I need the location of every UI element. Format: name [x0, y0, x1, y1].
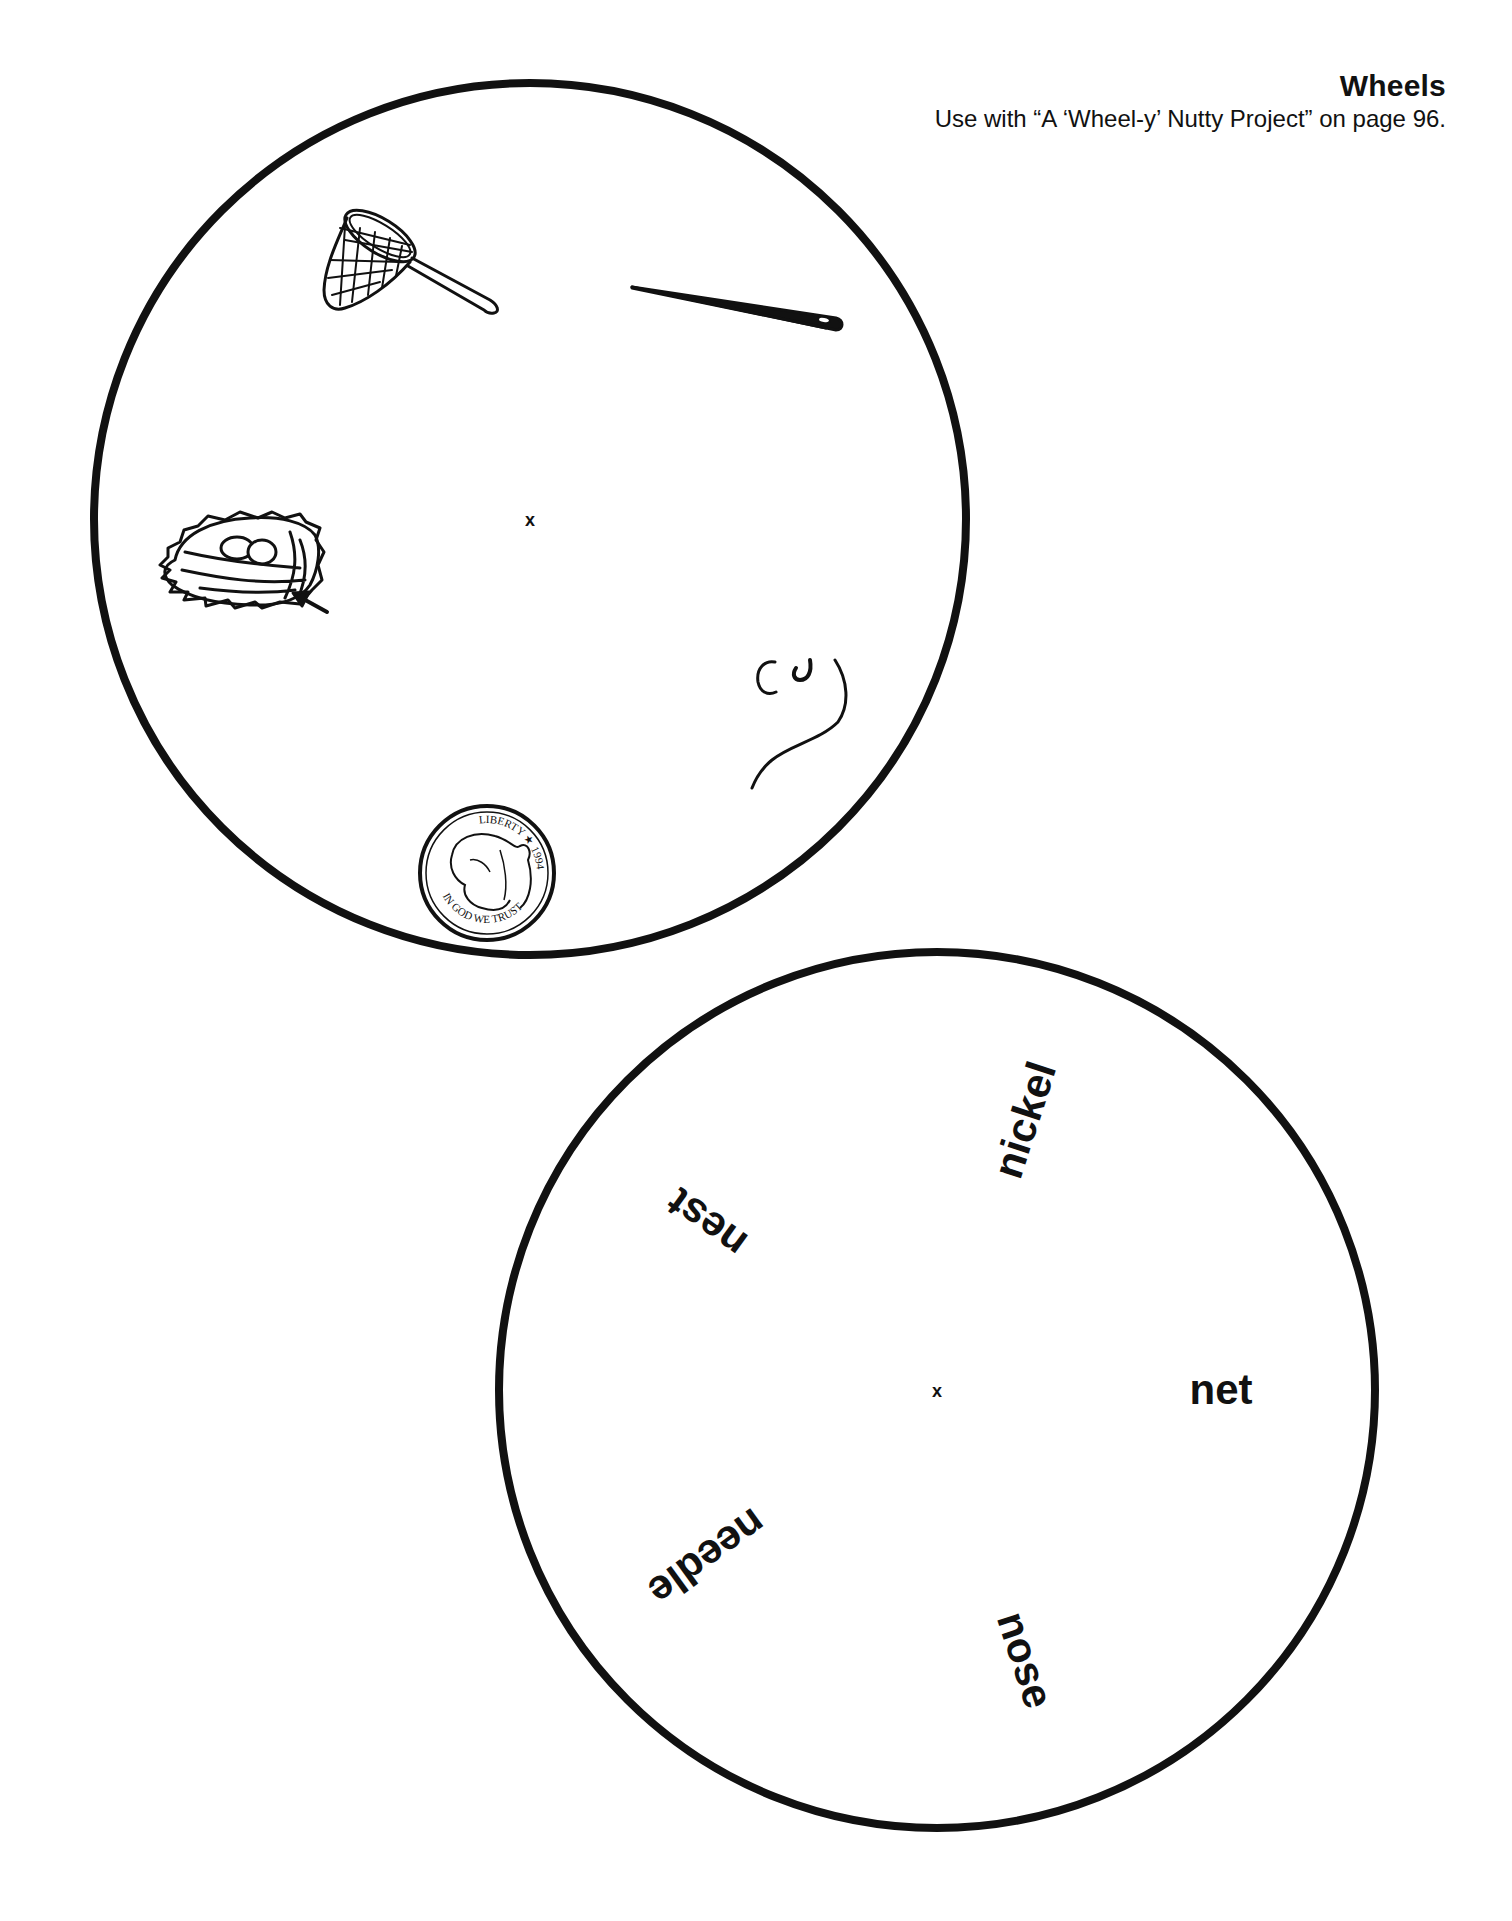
nose-icon [752, 660, 846, 788]
net-icon [324, 200, 497, 313]
wheels-artwork: x LIBERTY ★ 1994 [0, 0, 1512, 1921]
needle-icon [632, 287, 842, 330]
picture-wheel-center-mark: x [525, 510, 535, 530]
word-wheel-center-mark: x [932, 1381, 942, 1401]
word-net: net [1190, 1369, 1253, 1411]
nickel-icon: LIBERTY ★ 1994 IN GOD WE TRUST [420, 806, 554, 940]
nest-icon [160, 512, 327, 612]
